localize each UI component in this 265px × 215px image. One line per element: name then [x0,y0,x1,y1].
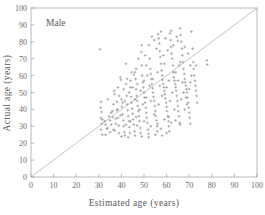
y-axis-title: Actual age (years) [2,55,13,132]
x-tick-label: 30 [95,181,103,190]
data-point [145,96,148,99]
data-point [177,40,180,43]
data-point [125,95,128,98]
data-point [157,103,160,106]
data-point [160,127,163,130]
data-point [120,135,123,138]
data-point [164,97,167,100]
data-point [138,120,141,123]
data-point [185,88,188,91]
data-point [139,89,142,92]
data-point [172,64,175,67]
x-axis-title: Estimated age (years) [89,198,180,209]
data-point [126,103,129,106]
data-point [141,74,144,77]
data-point [128,126,131,129]
data-point [119,76,122,79]
data-point [146,74,149,77]
data-point [132,123,135,126]
data-point [113,89,116,92]
x-tick-label: 60 [163,181,171,190]
data-point [183,46,186,49]
data-point [168,79,171,82]
data-point [181,81,184,84]
y-tick-label: 50 [19,89,27,98]
data-point [136,105,139,108]
x-tick-label: 0 [29,181,33,190]
data-point [132,118,135,121]
data-point [172,76,175,79]
data-point [140,44,143,47]
data-point [130,95,133,98]
data-point [122,119,125,122]
data-point [164,37,167,40]
data-point [147,128,150,131]
data-point [195,64,198,67]
data-point [195,89,198,92]
panel-annotation: Male [46,18,66,28]
data-point [142,86,145,89]
data-point [174,83,177,86]
data-point [101,133,104,136]
data-point [99,48,102,51]
data-point [126,78,129,81]
data-point [161,74,164,77]
data-point [158,42,161,45]
data-point [133,130,136,133]
data-point [143,120,146,123]
data-point [175,35,178,38]
data-point [134,71,137,74]
y-tick-label: 60 [19,72,27,81]
data-point [162,83,165,86]
data-point [106,98,109,101]
data-point [145,64,148,67]
data-point [170,29,173,32]
data-point [171,57,174,60]
data-point [120,78,123,81]
data-point [109,131,112,134]
y-tick-label: 40 [19,105,27,114]
data-point [172,44,175,47]
axis-tick-labels: 0102030405060708090100010203040506070809… [15,4,263,190]
data-point [174,119,177,122]
data-point [149,125,152,128]
data-point [118,132,121,135]
data-point [159,56,162,59]
x-tick-label: 100 [251,181,263,190]
data-point [144,106,147,109]
data-point [145,117,148,120]
data-point [148,84,151,87]
data-point [170,52,173,55]
data-point [166,49,169,52]
data-point [156,122,159,125]
data-point [163,93,166,96]
data-point [184,84,187,87]
data-point [126,109,129,112]
data-point [196,101,199,104]
data-point [183,73,186,76]
data-point [129,120,132,123]
data-point [154,110,157,113]
data-point [127,136,130,139]
data-point [163,118,166,121]
data-point [163,62,166,65]
data-point [135,67,138,70]
data-point [148,44,151,47]
data-point [161,78,164,81]
data-point [168,125,171,128]
data-point [125,62,128,65]
data-point [188,111,191,114]
data-point [137,57,140,60]
data-point [104,123,107,126]
data-point [154,115,157,118]
data-point [138,115,141,118]
data-point [177,110,180,113]
data-point [121,101,124,104]
data-point [147,133,150,136]
data-point [179,27,182,30]
data-point [160,30,163,33]
data-point [186,91,189,94]
data-point [111,116,114,119]
data-point [109,119,112,122]
data-point [182,67,185,70]
